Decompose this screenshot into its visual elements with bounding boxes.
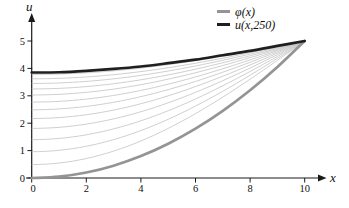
x-tick-label: 2 <box>84 183 89 194</box>
y-axis-arrow-icon <box>28 13 35 22</box>
legend: φ(x) u(x,250) <box>217 5 275 31</box>
legend-label-phi: φ(x) <box>235 6 255 18</box>
legend-label-u250: u(x,250) <box>235 19 275 31</box>
y-tick-label: 0 <box>20 173 25 184</box>
y-tick-label: 4 <box>20 63 26 74</box>
y-axis-label: u <box>26 0 33 13</box>
y-tick-label: 5 <box>20 36 25 47</box>
x-tick-label: 0 <box>31 183 36 194</box>
y-tick-label: 3 <box>20 90 25 101</box>
x-tick-label: 10 <box>299 183 310 194</box>
x-tick-label: 8 <box>247 183 252 194</box>
x-tick-label: 6 <box>193 183 198 194</box>
legend-swatch-phi-icon <box>217 10 230 13</box>
pde-convergence-figure: 0246810012345 u x φ(x) u(x,250) <box>0 0 349 208</box>
intermediate-curve <box>32 41 305 140</box>
x-axis-label: x <box>330 171 336 184</box>
legend-item-phi: φ(x) <box>217 5 275 18</box>
intermediate-curve <box>32 41 305 152</box>
y-tick-label: 1 <box>20 145 25 156</box>
x-axis-arrow-icon <box>318 174 327 181</box>
plot-canvas: 0246810012345 <box>0 0 349 208</box>
legend-swatch-u250-icon <box>217 23 230 26</box>
intermediate-curve <box>32 41 305 128</box>
x-tick-label: 4 <box>138 183 144 194</box>
y-tick-label: 2 <box>20 118 25 129</box>
legend-item-u250: u(x,250) <box>217 18 275 31</box>
